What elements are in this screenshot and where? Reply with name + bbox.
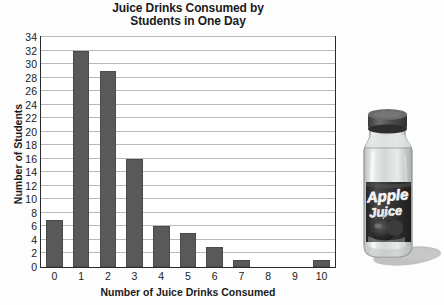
y-axis-tick-label: 14: [25, 166, 37, 178]
x-axis-tick-label: 0: [51, 270, 57, 282]
y-axis-tick-label: 10: [25, 193, 37, 205]
chart-figure: Juice Drinks Consumed by Students in One…: [0, 0, 444, 305]
x-axis-tick-label: 5: [185, 270, 191, 282]
bar: [100, 71, 117, 267]
chart-title-line-2: Students in One Day: [40, 15, 336, 28]
chart-title: Juice Drinks Consumed by Students in One…: [40, 2, 336, 28]
x-axis-tick-label: 7: [239, 270, 245, 282]
y-axis-tick-label: 12: [25, 180, 37, 192]
bar: [206, 247, 223, 267]
x-axis-tick-label: 2: [105, 270, 111, 282]
y-axis-tick-label: 18: [25, 139, 37, 151]
y-axis-title: Number of Students: [12, 74, 24, 234]
y-axis-tick-label: 2: [31, 247, 37, 259]
y-axis-tick-label: 6: [31, 220, 37, 232]
bottle-cap: [368, 109, 407, 134]
y-axis-tick-label: 32: [25, 45, 37, 57]
bar: [180, 233, 197, 267]
y-axis-tick-label: 26: [25, 85, 37, 97]
y-axis-tick-label: 8: [31, 207, 37, 219]
bar: [313, 260, 330, 267]
y-axis-tick-label: 16: [25, 153, 37, 165]
x-axis-tick-label: 6: [212, 270, 218, 282]
x-axis-tick-label: 10: [316, 270, 328, 282]
x-axis-tick-label: 3: [132, 270, 138, 282]
y-axis-tick-label: 0: [31, 261, 37, 273]
y-axis-tick-label: 20: [25, 126, 37, 138]
x-axis-tick-label: 9: [292, 270, 298, 282]
y-axis-tick-label: 22: [25, 112, 37, 124]
bar: [233, 260, 250, 267]
x-axis-tick-label: 1: [78, 270, 84, 282]
bar: [153, 226, 170, 267]
y-axis-tick-label: 30: [25, 58, 37, 70]
x-axis-tick-label: 8: [265, 270, 271, 282]
bar: [46, 220, 63, 267]
x-axis-title: Number of Juice Drinks Consumed: [40, 286, 336, 298]
apple-juice-bottle-illustration: Apple Juice: [345, 108, 441, 278]
x-axis-tick-label: 4: [158, 270, 164, 282]
y-axis-tick-label: 4: [31, 234, 37, 246]
y-axis-tick-label: 24: [25, 99, 37, 111]
plot-area: 0246810121416182022242628303234 01234567…: [40, 36, 336, 268]
bar: [126, 159, 143, 267]
bar-series: 012345678910: [41, 37, 335, 267]
y-axis-tick-label: 28: [25, 72, 37, 84]
y-axis-tick-label: 34: [25, 31, 37, 43]
label-text-juice: Juice: [368, 203, 402, 221]
bottle-label: Apple Juice: [365, 182, 411, 242]
bar: [73, 51, 90, 267]
